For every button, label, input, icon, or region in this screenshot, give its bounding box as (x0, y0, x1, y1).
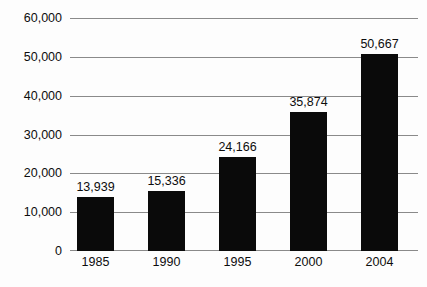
y-axis-tick-label: 30,000 (24, 128, 62, 141)
y-axis-labels: 60,000 50,000 40,000 30,000 20,000 10,00… (0, 18, 62, 251)
bar-value-1990: 15,336 (147, 175, 185, 191)
y-axis-tick-label: 40,000 (24, 89, 62, 102)
y-axis-tick-label: 0 (55, 245, 62, 258)
bar-1990 (148, 191, 185, 251)
bar-1985 (77, 197, 114, 251)
y-axis-tick-label: 20,000 (24, 167, 62, 180)
bar-2004 (361, 54, 398, 251)
x-axis-label-2000: 2000 (295, 256, 323, 269)
x-axis-label-2004: 2004 (366, 256, 394, 269)
bar-chart: 60,000 50,000 40,000 30,000 20,000 10,00… (0, 0, 427, 287)
bar-value-2004: 50,667 (360, 38, 398, 54)
x-axis-label-1990: 1990 (153, 256, 181, 269)
y-axis-tick-label: 60,000 (24, 12, 62, 25)
y-axis-tick-label: 10,000 (24, 206, 62, 219)
bar-value-1995: 24,166 (218, 141, 256, 157)
plot-area: 13,939 15,336 24,166 35,874 50,667 (70, 18, 418, 251)
y-axis-tick-label: 50,000 (24, 51, 62, 64)
x-axis-label-1985: 1985 (82, 256, 110, 269)
bar-value-1985: 13,939 (76, 180, 114, 196)
bar-1995 (219, 157, 256, 251)
bar-2000 (290, 112, 327, 251)
x-axis-label-1995: 1995 (224, 256, 252, 269)
bar-value-2000: 35,874 (289, 95, 327, 111)
gridline-60000 (70, 18, 418, 19)
